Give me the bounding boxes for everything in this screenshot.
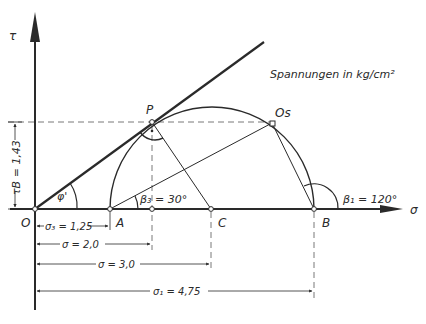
beta3-angle-label: β₃ = 30°: [139, 193, 187, 206]
tau-axis-label: τ: [9, 29, 17, 43]
label-b: B: [322, 216, 330, 230]
label-p: P: [146, 103, 154, 117]
sigma1-label: σ₁ = 4,75: [153, 286, 200, 297]
point-origin: [33, 207, 38, 212]
sigma3-label: σ₃ = 1,25: [45, 221, 92, 232]
point-p: [150, 120, 155, 125]
right-angle-dot-icon: [151, 130, 154, 133]
sigma-axis-label: σ: [410, 203, 418, 217]
point-sigma-2: [150, 207, 155, 212]
phi-angle-label: φ': [57, 190, 67, 203]
sigma-3-label: σ = 3,0: [98, 259, 135, 270]
beta3-angle-arc-icon: [135, 196, 138, 209]
tau-b-label: τB = 1,43: [10, 140, 23, 195]
sigma-2-label: σ = 2,0: [62, 239, 99, 250]
sigma-axis: [10, 205, 403, 213]
mohr-circle-diagram: τ σ Spannungen in kg/cm² φ' β₃ = 30° β₁ …: [0, 0, 426, 324]
point-c: [209, 207, 214, 212]
label-os: Os: [275, 106, 291, 120]
label-origin: O: [21, 216, 30, 230]
label-a: A: [115, 216, 124, 230]
tau-axis: [30, 12, 40, 310]
point-b: [312, 207, 317, 212]
label-c: C: [218, 216, 227, 230]
beta1-angle-label: β₁ = 120°: [342, 193, 397, 206]
point-os: [270, 121, 275, 126]
beta1-angle-arc-icon: [304, 184, 338, 209]
line-b-os: [272, 123, 314, 209]
units-caption: Spannungen in kg/cm²: [270, 68, 395, 81]
sigma-axis-arrow-icon: [380, 205, 403, 213]
tau-axis-arrow-icon: [30, 12, 40, 42]
point-a: [108, 207, 113, 212]
phi-angle-arc-icon: [70, 183, 77, 209]
tangent-envelope-line: [35, 42, 264, 209]
